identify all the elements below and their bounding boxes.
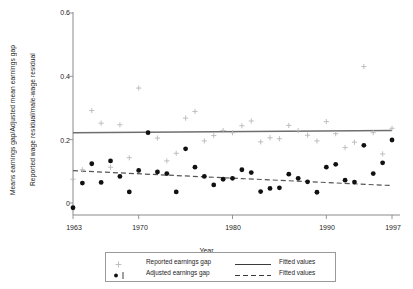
plot-area [0, 0, 413, 289]
legend-label-fitted-solid: Fitted values [279, 256, 315, 267]
series-reported-earnings-gap [70, 64, 394, 182]
legend-label-adjusted: Adjusted earnings gap [146, 267, 210, 278]
axis-ticks [69, 13, 392, 219]
legend-label-reported: Reported earnings gap [146, 256, 211, 267]
figure: Means earnings gap/Adjusted mean earning… [0, 0, 413, 289]
legend-label-fitted-dashed: Fitted values [279, 267, 315, 278]
series-adjusted-earnings-gap [71, 130, 395, 210]
dot-bar-icon [112, 267, 128, 285]
axis-spines [73, 12, 400, 215]
dashed-line-icon [234, 267, 272, 285]
chart-legend: Reported earnings gap Fitted values Adju… [105, 252, 336, 282]
